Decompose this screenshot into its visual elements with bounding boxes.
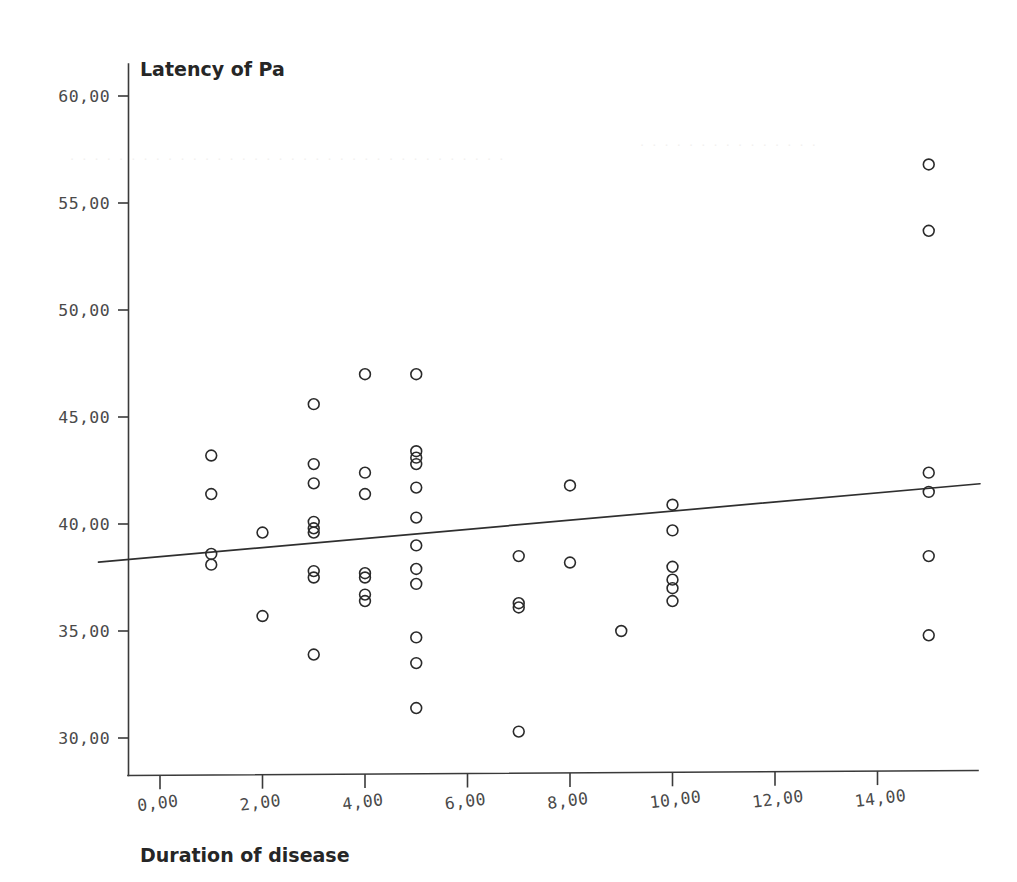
data-point-marker xyxy=(411,482,422,493)
y-tick-marks xyxy=(118,96,128,738)
y-tick-label: 60,00 xyxy=(58,87,110,106)
x-tick-labels: 0,002,004,006,008,0010,0012,0014,00 xyxy=(136,786,907,815)
x-axis-line xyxy=(128,771,978,776)
data-point-marker xyxy=(923,159,934,170)
scatter-plot: 30,0035,0040,0045,0050,0055,0060,00 0,00… xyxy=(0,0,1017,882)
data-points xyxy=(206,159,934,737)
x-tick-label: 10,00 xyxy=(649,787,703,812)
data-point-marker xyxy=(411,703,422,714)
data-point-marker xyxy=(565,480,576,491)
data-point-marker xyxy=(513,551,524,562)
data-point-marker xyxy=(923,630,934,641)
y-axis-title: Latency of Pa xyxy=(140,58,285,80)
data-point-marker xyxy=(616,626,627,637)
data-point-marker xyxy=(360,489,371,500)
data-point-marker xyxy=(308,649,319,660)
x-axis xyxy=(128,771,978,790)
regression-line-segment xyxy=(99,484,981,562)
data-point-marker xyxy=(411,632,422,643)
data-point-marker xyxy=(308,399,319,410)
data-point-marker xyxy=(411,564,422,575)
data-point-marker xyxy=(923,551,934,562)
data-point-marker xyxy=(360,369,371,380)
data-point-marker xyxy=(411,658,422,669)
y-tick-label: 45,00 xyxy=(58,408,110,427)
y-tick-label: 55,00 xyxy=(58,194,110,213)
data-point-marker xyxy=(513,726,524,737)
x-tick-label: 2,00 xyxy=(239,791,282,815)
data-point-marker xyxy=(411,512,422,523)
data-point-marker xyxy=(923,225,934,236)
regression-line xyxy=(99,484,981,562)
data-point-marker xyxy=(667,561,678,572)
data-point-marker xyxy=(206,450,217,461)
data-point-marker xyxy=(206,489,217,500)
data-point-marker xyxy=(308,478,319,489)
y-tick-label: 35,00 xyxy=(58,622,110,641)
data-point-marker xyxy=(206,549,217,560)
data-point-marker xyxy=(565,557,576,568)
data-point-marker xyxy=(308,459,319,470)
data-point-marker xyxy=(667,525,678,536)
data-point-marker xyxy=(667,596,678,607)
data-point-marker xyxy=(257,611,268,622)
y-tick-labels: 30,0035,0040,0045,0050,0055,0060,00 xyxy=(58,87,110,748)
x-tick-label: 12,00 xyxy=(751,787,805,812)
chart-page: · · · · · · · · · · · · · · · · · · · · … xyxy=(0,0,1017,882)
data-point-marker xyxy=(308,572,319,583)
y-tick-label: 50,00 xyxy=(58,301,110,320)
data-point-marker xyxy=(667,499,678,510)
data-point-marker xyxy=(360,596,371,607)
data-point-marker xyxy=(411,540,422,551)
data-point-marker xyxy=(360,467,371,478)
x-tick-label: 6,00 xyxy=(444,790,487,814)
data-point-marker xyxy=(257,527,268,538)
x-tick-label: 14,00 xyxy=(854,786,908,811)
data-point-marker xyxy=(206,559,217,570)
y-tick-label: 40,00 xyxy=(58,515,110,534)
data-point-marker xyxy=(411,369,422,380)
y-axis xyxy=(118,64,129,776)
data-point-marker xyxy=(923,467,934,478)
x-tick-label: 4,00 xyxy=(341,790,384,814)
y-tick-label: 30,00 xyxy=(58,729,110,748)
x-tick-label: 8,00 xyxy=(546,789,589,813)
x-axis-title: Duration of disease xyxy=(140,844,350,866)
x-tick-label: 0,00 xyxy=(136,791,179,815)
data-point-marker xyxy=(411,579,422,590)
data-point-marker xyxy=(411,459,422,470)
